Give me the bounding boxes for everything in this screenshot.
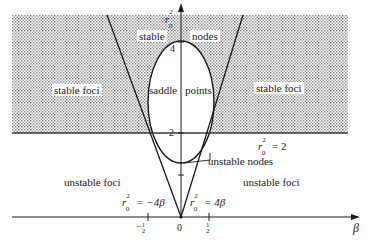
region-label-stable: stable [137, 30, 167, 42]
region-label-saddle: saddle [147, 84, 179, 96]
equation-r2-equals-2: r20 = 2 [256, 137, 289, 157]
region-label-nodes: nodes [190, 30, 220, 42]
y-axis-arrow-icon [178, 3, 184, 12]
region-label-stable-foci-right: stable foci [254, 82, 304, 94]
x-tick-label-zero: 0 [177, 223, 182, 233]
region-label-unstable-foci-left: unstable foci [62, 176, 123, 188]
y-tick-label-2: 2 [169, 128, 174, 138]
x-axis-arrow-icon [351, 214, 360, 220]
equation-r2-equals-4beta: r20 = 4β [188, 193, 227, 213]
region-label-stable-foci-left: stable foci [52, 84, 102, 96]
x-axis-label: β [351, 222, 361, 234]
y-axis-label: r20 [163, 10, 178, 30]
region-label-points: points [183, 84, 214, 96]
origin-point [179, 215, 182, 218]
y-tick-label-4: 4 [170, 44, 175, 54]
x-tick-label-minus-half: −12 [136, 222, 145, 234]
equation-r2-equals-minus-4beta: r20 = −4β [120, 193, 167, 213]
x-tick-label-half: 12 [206, 222, 210, 234]
stability-diagram [0, 0, 368, 247]
region-label-unstable-foci-right: unstable foci [241, 176, 302, 188]
